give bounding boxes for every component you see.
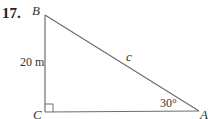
right-angle-marker [45,104,53,112]
side-ca [45,111,199,112]
angle-label-a: 30° [160,96,177,110]
triangle-diagram: 17. B C A 20 m c 30° [0,0,208,119]
vertex-label-a: A [199,107,208,119]
problem-number: 17. [2,5,21,21]
vertex-label-b: B [32,3,40,18]
side-label-ab: c [126,49,132,64]
side-label-bc: 20 m [20,55,45,69]
vertex-label-c: C [33,107,42,119]
